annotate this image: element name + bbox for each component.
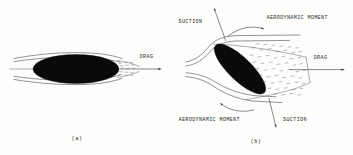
stalled-body-b (208, 37, 273, 101)
drag-label-a: DRAG (140, 54, 154, 60)
aerodynamic-moment-label-bottom-b: AERODYNAMIC MOMENT (179, 117, 240, 123)
aerodynamic-moment-label-top-b: AERODYNAMIC MOMENT (267, 15, 328, 21)
panel-b-caption: (b) (251, 139, 262, 145)
suction-arrow-bottom-b (269, 99, 276, 127)
panel-a-caption: (a) (72, 136, 83, 142)
panel-a: DRAG (a) (10, 53, 161, 142)
suction-arrow-top-b (214, 9, 225, 41)
figure-canvas: DRAG (a) (0, 0, 353, 155)
aerodynamic-moment-arrow-bottom-b (221, 103, 254, 111)
drag-label-b: DRAG (314, 55, 328, 61)
suction-label-top-b: SUCTION (179, 19, 203, 25)
aerodynamic-moment-arrow-top-b (228, 27, 264, 36)
aerodynamics-figure: DRAG (a) (0, 0, 353, 155)
suction-label-bottom-b: SUCTION (283, 117, 307, 123)
panel-b: SUCTION AERODYNAMIC MOMENT DRAG AERODYNA… (179, 9, 345, 145)
streamlined-body-a (33, 55, 119, 84)
